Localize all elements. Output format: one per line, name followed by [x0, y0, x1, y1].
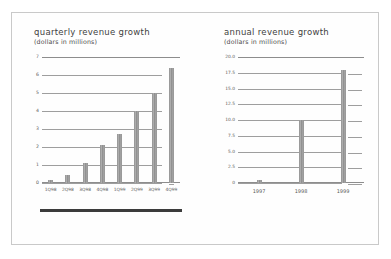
x-axis-tick-label: 2Q98 [62, 188, 74, 192]
x-axis-tick-label: 4Q98 [96, 188, 108, 192]
gridline-tick-stub [348, 105, 362, 106]
document-sheet: quarterly revenue growth (dollars in mil… [11, 12, 379, 245]
quarterly-baseline-rule [40, 209, 182, 212]
bar [169, 68, 174, 183]
plot-area-annual: 02.55.07.510.012.515.017.520.01997199819… [238, 57, 364, 183]
chart-subtitle-annual: (dollars in millions) [224, 38, 287, 45]
x-axis-tick-label: 1Q99 [114, 188, 126, 192]
plot-area-quarterly: 012345671Q982Q983Q984Q981Q992Q993Q994Q99 [42, 57, 180, 183]
y-axis-tick-label: 2.5 [228, 165, 235, 169]
bar [48, 180, 53, 183]
gridline [238, 167, 342, 168]
bar [152, 93, 157, 183]
y-axis-tick-label: 0 [232, 181, 235, 185]
bar [65, 175, 70, 183]
x-axis-tick-label: 1Q98 [45, 188, 57, 192]
gridline [42, 57, 180, 58]
chart-title-quarterly: quarterly revenue growth [34, 27, 150, 37]
bar [100, 145, 105, 183]
y-axis-tick-label: 5.0 [228, 149, 235, 153]
y-axis-tick-label: 2 [36, 145, 39, 150]
gridline [238, 136, 342, 137]
gridline-tick-stub [348, 153, 362, 154]
chart-title-annual: annual revenue growth [224, 27, 329, 37]
gridline [42, 183, 162, 184]
gridline-tick-stub [348, 121, 362, 122]
gridline [238, 89, 342, 90]
x-axis-tick-label: 4Q99 [165, 188, 177, 192]
gridline-tick-stub [348, 184, 362, 185]
bar [299, 120, 304, 183]
x-axis-tick-label: 1999 [337, 189, 350, 194]
chart-subtitle-quarterly: (dollars in millions) [34, 38, 97, 45]
x-axis-tick-label: 2Q99 [131, 188, 143, 192]
gridline [42, 129, 162, 130]
gridline-tick-stub [348, 137, 362, 138]
bar [257, 180, 262, 183]
y-axis-tick-label: 6 [36, 73, 39, 78]
y-axis-tick-label: 20.0 [225, 55, 235, 59]
x-axis-tick-label: 1997 [253, 189, 266, 194]
y-axis-tick-label: 1 [36, 163, 39, 168]
gridline [42, 111, 162, 112]
y-axis-tick-label: 4 [36, 109, 39, 114]
gridline-tick-stub [348, 74, 362, 75]
chart-quarterly-revenue-growth: quarterly revenue growth (dollars in mil… [12, 13, 202, 246]
x-axis-tick-label: 3Q99 [148, 188, 160, 192]
y-axis-tick-label: 17.5 [225, 71, 235, 75]
gridline [238, 120, 342, 121]
gridline [238, 152, 342, 153]
y-axis-tick-label: 12.5 [225, 102, 235, 106]
gridline [238, 183, 342, 184]
x-axis-tick-label: 3Q98 [79, 188, 91, 192]
y-axis-tick-label: 7 [36, 55, 39, 60]
y-axis-tick-label: 7.5 [228, 134, 235, 138]
bar [134, 111, 139, 183]
gridline [238, 73, 342, 74]
gridline-tick-stub [348, 168, 362, 169]
y-axis-tick-label: 3 [36, 127, 39, 132]
y-axis-tick-label: 15.0 [225, 86, 235, 90]
y-axis-tick-label: 5 [36, 91, 39, 96]
bar [341, 70, 346, 183]
bar [117, 134, 122, 183]
gridline [238, 57, 364, 58]
bar [83, 163, 88, 183]
chart-annual-revenue-growth: annual revenue growth (dollars in millio… [202, 13, 380, 246]
x-axis-tick-label: 1998 [295, 189, 308, 194]
gridline-tick-stub [348, 90, 362, 91]
gridline [42, 75, 162, 76]
y-axis-tick-label: 10.0 [225, 118, 235, 122]
y-axis-tick-label: 0 [36, 181, 39, 186]
gridline [238, 104, 342, 105]
gridline-tick-stub [169, 184, 174, 185]
gridline [42, 93, 162, 94]
